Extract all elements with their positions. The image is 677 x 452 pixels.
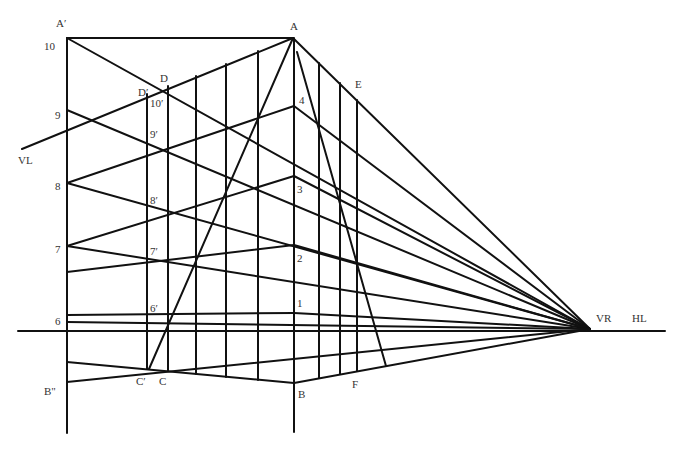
label-n10: 10	[44, 40, 56, 52]
line-upper-base-to-b	[67, 362, 294, 383]
label-n1: 1	[297, 297, 303, 309]
line-a-prime-diag	[67, 38, 590, 329]
label-n8: 8	[55, 180, 61, 192]
point-labels: A′A109876VLB"DD′10′9′8′7′6′C′CE4321BFVRH…	[18, 17, 647, 400]
line-b-to-vr	[294, 329, 590, 383]
construction-lines	[18, 38, 665, 433]
label-D: D	[160, 72, 168, 84]
label-C: C	[159, 375, 166, 387]
label-n6: 6	[55, 315, 61, 327]
line-n7-to-3	[67, 176, 294, 246]
label-A_prime: A′	[56, 17, 66, 29]
line-a-to-vr	[293, 38, 590, 329]
label-n4: 4	[299, 94, 305, 106]
label-n2: 2	[297, 252, 303, 264]
label-n8p: 8′	[150, 194, 158, 206]
label-HL: HL	[632, 312, 647, 324]
label-B_dbl: B"	[44, 385, 56, 397]
label-VR: VR	[596, 312, 612, 324]
label-A: A	[290, 20, 298, 32]
label-D_prime: D′	[138, 86, 148, 98]
label-n10p: 10′	[150, 97, 163, 109]
label-n7p: 7′	[150, 245, 158, 257]
label-VL: VL	[18, 154, 33, 166]
line-low7-to-2	[67, 245, 294, 272]
line-4-to-vr	[294, 106, 590, 329]
label-n3: 3	[297, 183, 303, 195]
label-F: F	[352, 378, 358, 390]
label-C_prime: C′	[136, 375, 146, 387]
perspective-diagram: A′A109876VLB"DD′10′9′8′7′6′C′CE4321BFVRH…	[0, 0, 677, 452]
label-n6p: 6′	[150, 302, 158, 314]
label-n9: 9	[55, 109, 61, 121]
label-B: B	[298, 388, 305, 400]
label-n9p: 9′	[150, 128, 158, 140]
line-n9-to-vr	[67, 110, 590, 329]
line-n6-to-1	[67, 313, 294, 315]
label-E: E	[355, 78, 362, 90]
label-n7: 7	[55, 243, 61, 255]
